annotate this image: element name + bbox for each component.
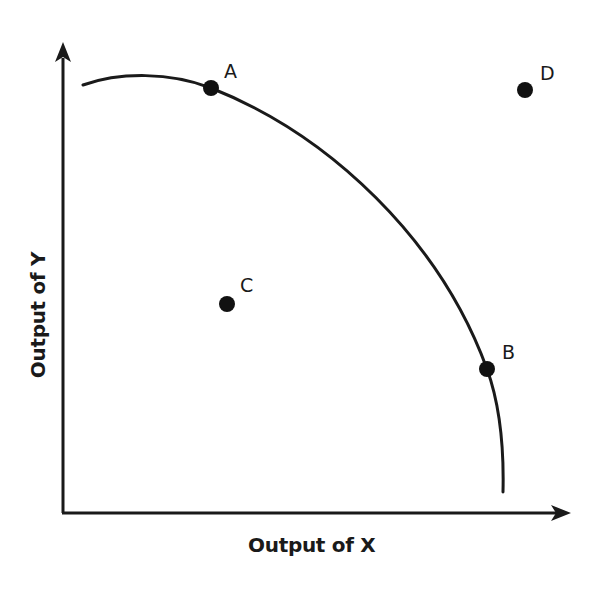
point-c-label: C: [240, 276, 253, 295]
x-axis-label: Output of X: [248, 533, 375, 557]
point-c-marker: [219, 296, 235, 312]
ppf-diagram: A B C D Output of X Output of Y: [0, 0, 597, 590]
point-b-marker: [479, 361, 495, 377]
point-a-marker: [203, 80, 219, 96]
diagram-canvas: [0, 0, 597, 590]
point-d-marker: [517, 82, 533, 98]
y-axis-label: Output of Y: [26, 252, 50, 378]
point-d-label: D: [540, 64, 555, 83]
point-b-label: B: [502, 343, 515, 362]
point-a-label: A: [224, 62, 237, 81]
ppf-curve: [83, 76, 503, 492]
